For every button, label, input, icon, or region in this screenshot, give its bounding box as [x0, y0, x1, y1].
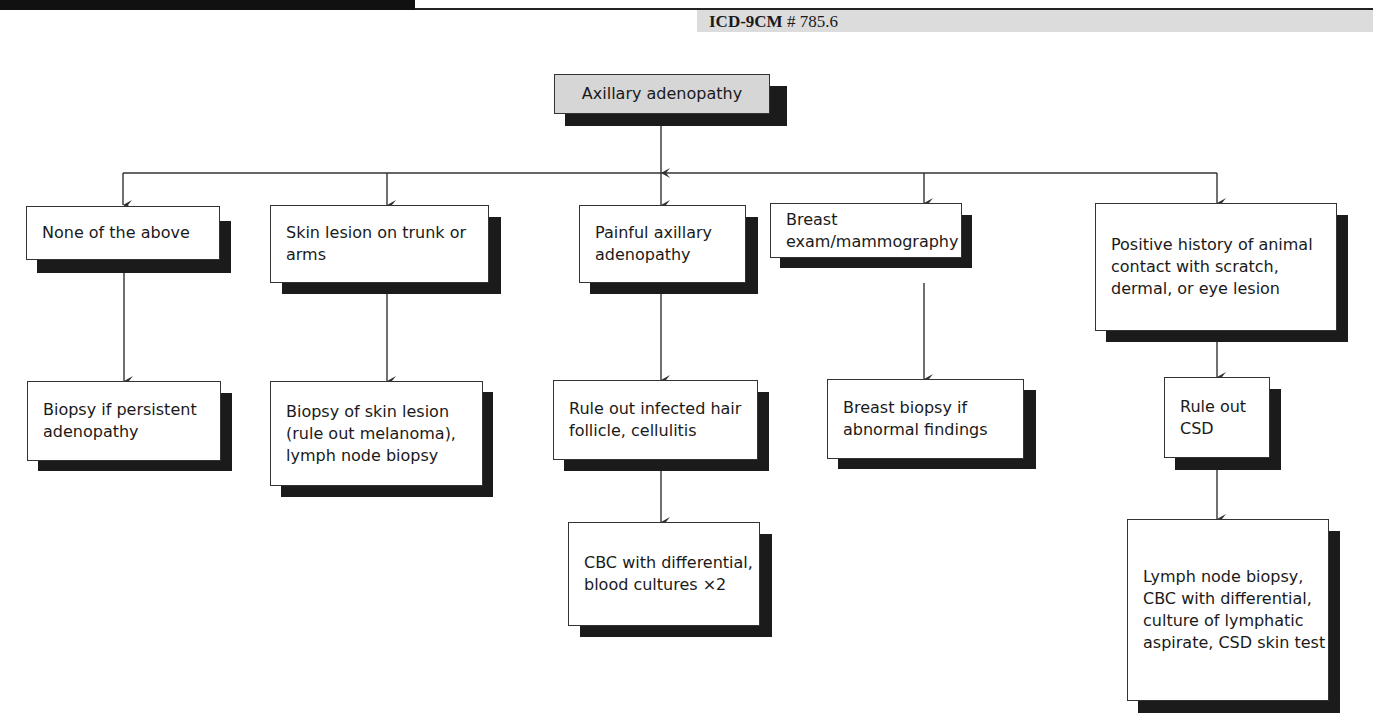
node-label: Biopsy of skin lesion (rule out melanoma… — [286, 401, 482, 467]
node-label: Biopsy if persistent adenopathy — [43, 399, 220, 443]
node-label: Rule out infected hair follicle, celluli… — [569, 398, 757, 442]
node-label: Breast exam/mammography — [786, 209, 961, 253]
node-label: Lymph node biopsy, CBC with differential… — [1143, 566, 1328, 654]
node-lymph-node-biopsy: Lymph node biopsy, CBC with differential… — [1127, 519, 1329, 701]
node-skin-lesion: Skin lesion on trunk or arms — [270, 205, 489, 283]
node-biopsy-skin-lesion: Biopsy of skin lesion (rule out melanoma… — [270, 381, 483, 486]
node-label: Painful axillary adenopathy — [595, 222, 745, 266]
node-label: Skin lesion on trunk or arms — [286, 222, 488, 266]
node-label: Breast biopsy if abnormal findings — [843, 397, 1023, 441]
node-rule-out-infection: Rule out infected hair follicle, celluli… — [553, 380, 758, 460]
node-painful-axillary: Painful axillary adenopathy — [579, 205, 746, 283]
node-breast-exam: Breast exam/mammography — [770, 203, 962, 258]
node-breast-biopsy: Breast biopsy if abnormal findings — [827, 379, 1024, 459]
root-node: Axillary adenopathy — [554, 74, 770, 114]
node-label: Rule out CSD — [1180, 396, 1269, 440]
node-cbc-blood-cultures: CBC with differential, blood cultures ×2 — [568, 522, 760, 626]
root-node-label: Axillary adenopathy — [582, 83, 742, 105]
node-label: CBC with differential, blood cultures ×2 — [584, 552, 759, 596]
node-label: None of the above — [42, 222, 190, 244]
node-animal-contact: Positive history of animal contact with … — [1095, 203, 1337, 331]
node-biopsy-persistent: Biopsy if persistent adenopathy — [27, 381, 221, 461]
node-none-of-the-above: None of the above — [26, 206, 220, 260]
node-label: Positive history of animal contact with … — [1111, 234, 1336, 300]
node-rule-out-csd: Rule out CSD — [1164, 377, 1270, 458]
